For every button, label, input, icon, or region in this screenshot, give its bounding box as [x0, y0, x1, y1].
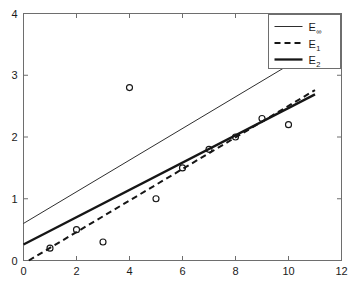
x-tick-label: 6 [179, 265, 185, 277]
plot-svg: 02468101201234 E∞E1E2 [0, 0, 357, 291]
data-points-group [47, 85, 292, 252]
x-tick-label: 0 [20, 265, 26, 277]
data-point-marker [286, 122, 292, 128]
y-tick-label: 3 [11, 69, 17, 81]
x-tick-label: 12 [335, 265, 347, 277]
y-tick-label: 2 [11, 131, 17, 143]
y-tick-label: 1 [11, 193, 17, 205]
scatter-regression-chart: 02468101201234 E∞E1E2 [0, 0, 357, 291]
series-line-E_inf [24, 49, 316, 223]
data-point-marker [100, 239, 106, 245]
x-tick-label: 2 [73, 265, 79, 277]
figure-container: 02468101201234 E∞E1E2 [0, 0, 357, 291]
x-tick-label: 4 [126, 265, 132, 277]
x-tick-label: 8 [232, 265, 238, 277]
x-tick-label: 10 [282, 265, 294, 277]
y-tick-label: 0 [11, 255, 17, 267]
series-group [24, 49, 316, 260]
data-point-marker [127, 85, 133, 91]
legend-subscript: ∞ [316, 27, 321, 36]
data-point-marker [153, 196, 159, 202]
legend-subscript: 1 [316, 44, 320, 53]
series-line-E_2 [24, 94, 316, 244]
legend[interactable]: E∞E1E2 [269, 15, 341, 70]
y-tick-label: 4 [11, 8, 17, 20]
legend-subscript: 2 [316, 60, 320, 69]
